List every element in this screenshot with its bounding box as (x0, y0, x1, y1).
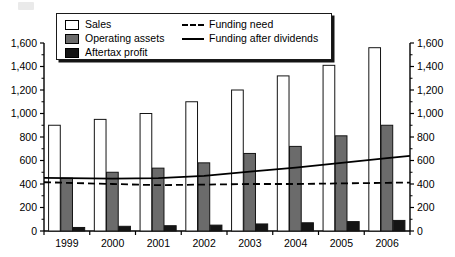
bar-operating-assets (290, 146, 302, 231)
x-axis-tick-label: 2002 (181, 238, 227, 249)
legend-item-sales: Sales (65, 18, 164, 31)
bar-sales (232, 90, 244, 231)
bar-sales (369, 48, 381, 231)
x-axis-tick-label: 2004 (273, 238, 319, 249)
legend-column-bars: Sales Operating assets Aftertax profit (65, 18, 164, 60)
legend-line-dashed-icon (182, 20, 204, 30)
y-axis-left-tick-label: 200 (0, 202, 37, 212)
bar-sales (186, 102, 198, 231)
x-axis-tick-label: 2005 (319, 238, 365, 249)
x-axis-tick-label: 2000 (90, 238, 136, 249)
x-axis-tick-label: 2003 (227, 238, 273, 249)
bar-aftertax-profit (393, 220, 405, 231)
chart-container: 02004006008001,0001,2001,4001,600 020040… (0, 0, 455, 257)
legend-item-operating-assets: Operating assets (65, 32, 164, 45)
y-axis-right-tick-label: 0 (417, 226, 423, 236)
bar-operating-assets (107, 172, 119, 231)
legend-label-funding-need: Funding need (209, 19, 273, 30)
legend-label-operating-assets: Operating assets (85, 33, 164, 44)
bar-sales (323, 65, 335, 231)
y-axis-right-tick-label: 1,600 (417, 38, 443, 48)
x-axis-tick-label: 1999 (44, 238, 90, 249)
bar-sales (94, 119, 106, 231)
y-axis-right-tick-label: 400 (417, 179, 435, 189)
y-axis-right-tick-label: 1,000 (417, 108, 443, 118)
legend-swatch-gray-icon (65, 34, 79, 44)
bar-sales (277, 76, 289, 231)
chart-legend: Sales Operating assets Aftertax profit F… (56, 13, 332, 60)
legend-item-funding-need: Funding need (182, 18, 318, 31)
bar-operating-assets (61, 178, 73, 231)
y-axis-left-tick-label: 800 (0, 132, 37, 142)
bar-aftertax-profit (302, 223, 314, 231)
legend-label-funding-after-dividends: Funding after dividends (209, 33, 318, 44)
y-axis-right-tick-label: 1,400 (417, 61, 443, 71)
y-axis-left-tick-label: 1,400 (0, 61, 37, 71)
bar-aftertax-profit (164, 226, 176, 231)
y-axis-left-tick-label: 0 (0, 226, 37, 236)
bar-aftertax-profit (73, 227, 85, 231)
legend-column-lines: Funding need Funding after dividends (182, 18, 318, 46)
y-axis-right-tick-label: 200 (417, 202, 435, 212)
bar-aftertax-profit (256, 224, 268, 231)
y-axis-left-tick-label: 600 (0, 155, 37, 165)
bar-operating-assets (198, 163, 210, 231)
y-axis-right-tick-label: 800 (417, 132, 435, 142)
legend-label-aftertax-profit: Aftertax profit (85, 47, 147, 58)
bar-operating-assets (381, 125, 393, 231)
x-axis-tick-label: 2001 (136, 238, 182, 249)
y-axis-left-tick-label: 1,000 (0, 108, 37, 118)
bar-sales (140, 114, 152, 232)
legend-swatch-black-icon (65, 48, 79, 58)
legend-item-aftertax-profit: Aftertax profit (65, 46, 164, 59)
x-axis-tick-label: 2006 (364, 238, 410, 249)
legend-line-solid-icon (182, 34, 204, 44)
y-axis-left-tick-label: 400 (0, 179, 37, 189)
bar-aftertax-profit (119, 226, 131, 231)
y-axis-right-tick-label: 1,200 (417, 85, 443, 95)
bar-aftertax-profit (210, 225, 222, 231)
y-axis-left-tick-label: 1,600 (0, 38, 37, 48)
legend-item-funding-after-dividends: Funding after dividends (182, 32, 318, 45)
legend-label-sales: Sales (85, 19, 111, 30)
y-axis-left-tick-label: 1,200 (0, 85, 37, 95)
y-axis-right-tick-label: 600 (417, 155, 435, 165)
bar-aftertax-profit (347, 222, 359, 231)
bar-operating-assets (244, 153, 256, 231)
legend-swatch-white-icon (65, 20, 79, 30)
